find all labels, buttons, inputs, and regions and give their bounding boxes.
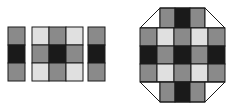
cell-1-4 [208,46,225,64]
cell-2-2 [174,64,191,82]
bottom-flap-cell-0-0 [160,82,175,102]
cell-0-1 [157,28,174,46]
cell-0-2 [66,27,83,45]
cell-1-0 [140,46,157,64]
cell-2-2 [66,63,83,81]
cell-2-3 [191,64,208,82]
top-flap [140,8,225,28]
cell-2-0 [32,63,49,81]
left-side-strip [8,27,25,81]
left-figure [0,0,112,111]
cell-0-0 [88,27,105,45]
cell-0-3 [191,28,208,46]
left-figure-svg [0,0,112,111]
cell-2-4 [208,64,225,82]
cell-1-0 [8,45,25,63]
cell-1-3 [191,46,208,64]
top-flap-cell-0-0 [160,8,175,28]
top-flap-cell-0-1 [175,8,190,28]
cell-1-0 [32,45,49,63]
cell-2-0 [140,64,157,82]
cell-1-1 [157,46,174,64]
diagram-canvas [0,0,241,111]
right-side-strip [88,27,105,81]
cell-0-4 [208,28,225,46]
right-figure-svg [133,0,241,111]
bottom-flap-cell-0-1 [175,82,190,102]
cell-1-2 [66,45,83,63]
cell-1-0 [88,45,105,63]
cell-2-0 [8,63,25,81]
cell-2-1 [157,64,174,82]
bottom-flap [140,82,225,102]
cell-0-1 [49,27,66,45]
left-center-face [32,27,83,81]
cell-1-2 [174,46,191,64]
cell-0-0 [8,27,25,45]
cell-2-0 [88,63,105,81]
bottom-flap-cell-0-2 [190,82,205,102]
cell-0-0 [140,28,157,46]
right-center-face [140,28,225,82]
cell-1-1 [49,45,66,63]
right-figure [133,0,241,111]
cell-2-1 [49,63,66,81]
cell-0-2 [174,28,191,46]
top-flap-cell-0-2 [190,8,205,28]
cell-0-0 [32,27,49,45]
